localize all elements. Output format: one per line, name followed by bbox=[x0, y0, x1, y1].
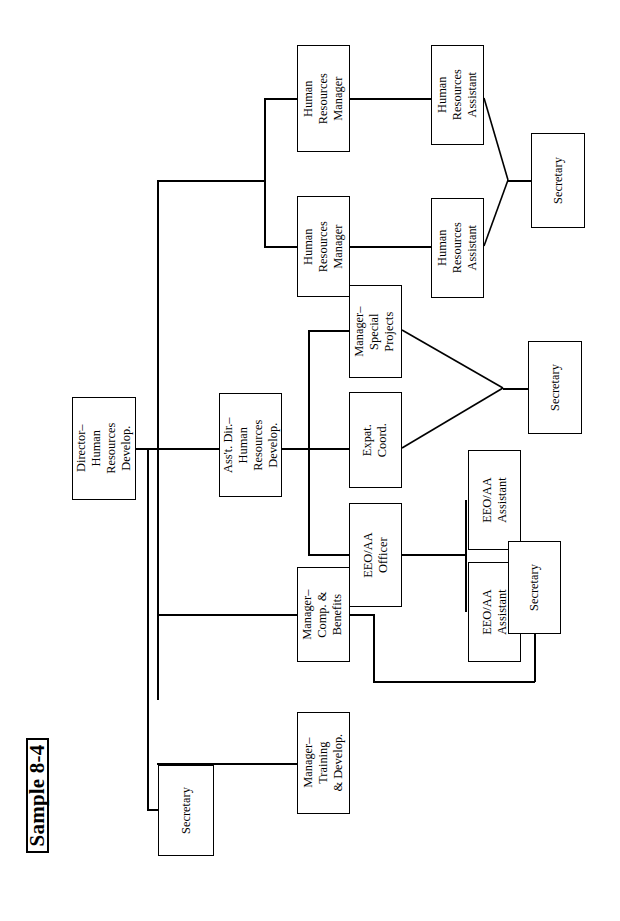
org-node-label-asst_director: Ass't. Dir.– Human Resources Develop. bbox=[220, 417, 281, 473]
org-chart-page: Sample 8-4 Director– Human Resources Dev… bbox=[0, 0, 620, 921]
org-node-label-mgr_special: Manager– Special Projects bbox=[353, 306, 398, 356]
connector-asst-dir-branch bbox=[157, 448, 220, 450]
chart-title-label: Sample 8-4 bbox=[25, 745, 50, 847]
org-node-secretary_hr[interactable]: Secretary bbox=[531, 133, 585, 228]
org-node-label-eeo_asst_2: EEO/AA Assistant bbox=[479, 589, 509, 634]
connector-secretary-trunk-vertical bbox=[147, 448, 149, 810]
org-node-label-secretary_dir: Secretary bbox=[178, 787, 193, 834]
org-node-eeo_asst_1[interactable]: EEO/AA Assistant bbox=[468, 450, 521, 550]
connector-hr-branch-feed bbox=[157, 180, 266, 182]
connector-asst-dir-out bbox=[282, 448, 309, 450]
org-node-mgr_comp[interactable]: Manager– Comp. & Benefits bbox=[297, 567, 350, 662]
org-node-label-secretary_eeo: Secretary bbox=[527, 564, 542, 611]
connector-expat-coord-stub bbox=[308, 448, 350, 450]
org-node-secretary_dir[interactable]: Secretary bbox=[158, 765, 214, 856]
org-node-label-hr_manager_1: Human Resources Manager bbox=[301, 73, 346, 124]
connector-hr-branch-vertical bbox=[264, 98, 266, 248]
org-node-label-hr_asst_2: Human Resources Assistant bbox=[435, 223, 480, 274]
org-node-secretary_exp[interactable]: Secretary bbox=[528, 341, 582, 434]
connector-eeo-asst-vertical bbox=[465, 500, 467, 612]
connector-hr-mgr1-stub bbox=[264, 98, 298, 100]
org-node-label-mgr_comp: Manager– Comp. & Benefits bbox=[301, 589, 346, 639]
org-node-eeo_officer[interactable]: EEO/AA Officer bbox=[349, 503, 402, 607]
org-node-label-eeo_asst_1: EEO/AA Assistant bbox=[479, 477, 509, 522]
org-node-label-director: Director– Human Resources Develop. bbox=[74, 423, 135, 474]
org-node-label-secretary_exp: Secretary bbox=[547, 364, 562, 411]
connector-expat-coord-to-sec bbox=[402, 388, 503, 448]
org-node-hr_manager_1[interactable]: Human Resources Manager bbox=[297, 45, 350, 152]
connector-director-trunk-vertical bbox=[157, 180, 159, 700]
org-node-label-eeo_officer: EEO/AA Officer bbox=[360, 532, 390, 577]
org-node-asst_director[interactable]: Ass't. Dir.– Human Resources Develop. bbox=[219, 393, 282, 497]
org-node-hr_asst_1[interactable]: Human Resources Assistant bbox=[431, 45, 484, 145]
connector-secretary-hr-stub bbox=[508, 180, 532, 182]
connector-mgr-comp-out bbox=[350, 614, 374, 616]
org-node-label-expat_coord: Expat. Coord. bbox=[360, 423, 390, 457]
org-node-hr_asst_2[interactable]: Human Resources Assistant bbox=[431, 198, 484, 298]
connector-mgr-comp-stub-left bbox=[157, 614, 298, 616]
connector-mgr-special-stub bbox=[308, 330, 350, 332]
org-node-label-secretary_hr: Secretary bbox=[550, 157, 565, 204]
connector-mgr-special-to-sec bbox=[402, 330, 503, 388]
connector-eeo-officer-out bbox=[402, 554, 466, 556]
connector-eeo-officer-stub bbox=[308, 554, 350, 556]
org-node-label-hr_asst_1: Human Resources Assistant bbox=[435, 70, 480, 121]
chart-title-box: Sample 8-4 bbox=[26, 738, 49, 853]
org-node-mgr_special[interactable]: Manager– Special Projects bbox=[349, 285, 402, 378]
connector-hr-mgr2-to-asst2 bbox=[350, 246, 432, 248]
org-node-director[interactable]: Director– Human Resources Develop. bbox=[72, 397, 136, 500]
connector-hr-mgr1-to-asst1 bbox=[350, 98, 432, 100]
org-node-mgr_training[interactable]: Manager– Training & Develop. bbox=[297, 712, 350, 814]
connector-mgr-comp-sec-horiz bbox=[373, 681, 535, 683]
connector-asst-dir-children-vert bbox=[308, 330, 310, 555]
connector-hr-mgr2-stub bbox=[264, 246, 298, 248]
org-node-expat_coord[interactable]: Expat. Coord. bbox=[349, 392, 402, 488]
connector-mgr-comp-sec-vert bbox=[373, 614, 375, 682]
connector-secretary-eeo-stub bbox=[534, 634, 536, 682]
org-node-label-mgr_training: Manager– Training & Develop. bbox=[301, 734, 346, 792]
connector-hr-asst1-to-secretary bbox=[484, 98, 508, 180]
org-node-secretary_eeo[interactable]: Secretary bbox=[508, 541, 561, 634]
connector-hr-asst2-to-secretary bbox=[484, 180, 508, 246]
org-node-hr_manager_2[interactable]: Human Resources Manager bbox=[297, 196, 350, 297]
connector-secretary-exp-stub bbox=[503, 388, 529, 390]
org-node-label-hr_manager_2: Human Resources Manager bbox=[301, 221, 346, 272]
